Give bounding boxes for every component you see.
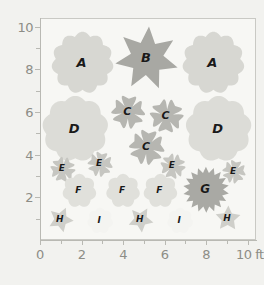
flower-c bbox=[111, 96, 145, 129]
flower-a bbox=[52, 32, 113, 93]
x-tick bbox=[227, 240, 228, 244]
y-tick bbox=[36, 219, 40, 220]
flower-f bbox=[63, 174, 96, 207]
y-tick bbox=[36, 176, 40, 177]
flower-d bbox=[186, 96, 251, 161]
x-tick bbox=[248, 240, 249, 245]
x-tick bbox=[165, 240, 166, 245]
flower-c bbox=[150, 99, 184, 132]
y-tick bbox=[35, 27, 40, 28]
y-tick bbox=[36, 133, 40, 134]
y-tick bbox=[36, 91, 40, 92]
flower-h bbox=[50, 208, 74, 233]
x-tick bbox=[82, 240, 83, 245]
flower-h bbox=[129, 208, 154, 232]
x-tick-label: 2 bbox=[78, 247, 86, 262]
flower-f bbox=[144, 174, 177, 207]
y-tick bbox=[35, 112, 40, 113]
y-tick bbox=[35, 69, 40, 70]
y-tick-label: 2 bbox=[6, 190, 33, 205]
flower-b bbox=[115, 27, 177, 89]
flower-c bbox=[129, 130, 164, 165]
flower-h bbox=[216, 206, 241, 230]
y-tick-label: 4 bbox=[6, 147, 33, 162]
x-tick-label: 8 bbox=[202, 247, 210, 262]
y-tick bbox=[36, 48, 40, 49]
x-tick-label: 4 bbox=[119, 247, 127, 262]
y-tick bbox=[35, 155, 40, 156]
flower-i bbox=[87, 208, 113, 233]
flower-e bbox=[222, 160, 245, 184]
x-tick-label: 6 bbox=[161, 247, 169, 262]
x-tick bbox=[40, 240, 41, 245]
y-tick-label: 8 bbox=[6, 62, 33, 77]
x-tick bbox=[185, 240, 186, 244]
flower-f bbox=[106, 174, 139, 207]
y-tick-label: 10 bbox=[6, 19, 33, 34]
y-axis-line bbox=[40, 18, 41, 241]
y-tick bbox=[35, 197, 40, 198]
plot-area bbox=[40, 18, 256, 240]
x-tick bbox=[123, 240, 124, 245]
y-tick-label: 6 bbox=[6, 104, 33, 119]
x-axis-line bbox=[40, 240, 257, 241]
flower-i bbox=[167, 208, 193, 233]
x-tick bbox=[206, 240, 207, 245]
x-tick bbox=[102, 240, 103, 244]
garden-plot-figure: ABACCDDCEEEEFFFGHIHIH 0246810 ft246810 bbox=[0, 0, 264, 285]
flower-scatter-layer bbox=[41, 19, 256, 240]
flower-g bbox=[183, 167, 228, 213]
x-tick bbox=[61, 240, 62, 244]
flower-d bbox=[43, 96, 108, 161]
x-tick-label: 0 bbox=[36, 247, 44, 262]
flower-e bbox=[161, 153, 186, 178]
x-tick bbox=[144, 240, 145, 244]
flower-a bbox=[183, 32, 244, 93]
x-tick-label: 10 ft bbox=[236, 247, 264, 262]
